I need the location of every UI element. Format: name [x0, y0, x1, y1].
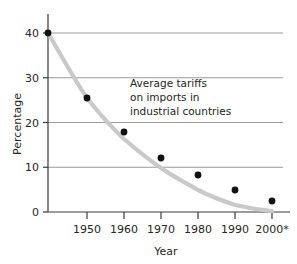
- x-tick-label-1960: 1960: [110, 223, 138, 236]
- chart-figure: 40 30 20 10 0 1950 1960 1970 1980 1990 2…: [0, 0, 297, 264]
- x-tick-label-1970: 1970: [147, 223, 175, 236]
- y-tick-label-20: 20: [25, 117, 39, 130]
- y-tick-label-10: 10: [25, 161, 39, 174]
- data-point-2000: [269, 198, 276, 205]
- tariffs-line-chart: 40 30 20 10 0 1950 1960 1970 1980 1990 2…: [0, 0, 297, 264]
- data-point-1960: [121, 129, 128, 136]
- x-tick-label-1990: 1990: [221, 223, 249, 236]
- x-tick-label-1980: 1980: [184, 223, 212, 236]
- data-point-1990: [232, 187, 239, 194]
- annotation-line-3: industrial countries: [130, 105, 231, 117]
- annotation-line-2: on imports in: [130, 91, 199, 103]
- data-point-1950: [84, 95, 91, 102]
- y-axis-title: Percentage: [11, 93, 24, 155]
- x-axis-title: Year: [153, 245, 178, 258]
- annotation-line-1: Average tariffs: [130, 77, 207, 89]
- x-tick-label-1950: 1950: [73, 223, 101, 236]
- y-tick-label-30: 30: [25, 72, 39, 85]
- y-tick-label-40: 40: [25, 27, 39, 40]
- data-point-1940: [45, 30, 52, 37]
- x-tick-label-2000: 2000*: [255, 223, 289, 236]
- data-point-1980: [195, 172, 202, 179]
- y-tick-label-0: 0: [32, 206, 39, 219]
- data-point-1970: [158, 155, 165, 162]
